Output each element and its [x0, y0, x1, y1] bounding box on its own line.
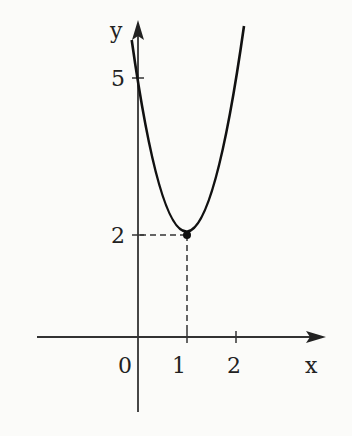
y-tick-label-2: 2	[111, 223, 125, 248]
x-tick-label-1: 1	[172, 353, 186, 378]
x-tick-label-0: 0	[118, 353, 132, 378]
y-axis-label: y	[109, 18, 123, 43]
y-tick-label-5: 5	[111, 66, 125, 91]
x-tick-label-2: 2	[227, 353, 241, 378]
parabola-curve	[132, 26, 244, 232]
x-axis-label: x	[305, 353, 318, 378]
vertex-point	[183, 231, 191, 239]
graph: y 5 2 0 1 2 x	[0, 0, 352, 436]
